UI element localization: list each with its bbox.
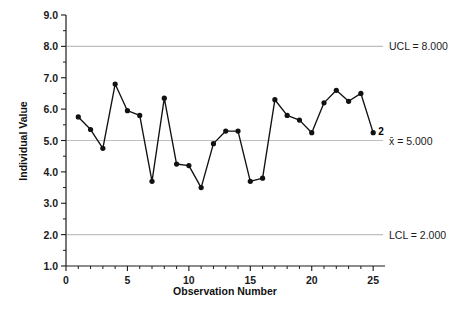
- data-point: [174, 161, 179, 166]
- limit-label-ucl: UCL = 8.000: [389, 40, 448, 52]
- x-tick-label: 20: [306, 274, 318, 286]
- data-point: [334, 88, 339, 93]
- y-tick-label: 7.0: [43, 72, 58, 84]
- y-tick-label: 9.0: [43, 9, 58, 21]
- y-axis-tick-labels: 1.02.03.04.05.06.07.08.09.0: [43, 9, 58, 272]
- x-tick-label: 0: [63, 274, 69, 286]
- y-axis-title: Individual Value: [17, 101, 29, 181]
- data-point: [309, 130, 314, 135]
- data-point: [260, 176, 265, 181]
- y-tick-label: 8.0: [43, 40, 58, 52]
- y-tick-label: 5.0: [43, 135, 58, 147]
- data-point: [285, 113, 290, 118]
- control-chart: 1.02.03.04.05.06.07.08.09.0 0510152025 I…: [0, 0, 471, 318]
- data-point: [272, 97, 277, 102]
- data-point: [113, 81, 118, 86]
- data-point: [162, 96, 167, 101]
- y-tick-label: 1.0: [43, 260, 58, 272]
- limit-label-center: x̄ = 5.000: [389, 135, 433, 147]
- data-point: [76, 114, 81, 119]
- data-point: [235, 128, 240, 133]
- data-point: [149, 179, 154, 184]
- data-point: [125, 108, 130, 113]
- data-point: [321, 100, 326, 105]
- data-point: [199, 185, 204, 190]
- data-point: [297, 118, 302, 123]
- data-point: [358, 91, 363, 96]
- y-tick-label: 6.0: [43, 103, 58, 115]
- data-point: [346, 99, 351, 104]
- x-tick-label: 5: [125, 274, 131, 286]
- data-point: [248, 179, 253, 184]
- limit-label-lcl: LCL = 2.000: [389, 229, 446, 241]
- data-point: [211, 141, 216, 146]
- data-point: [100, 146, 105, 151]
- violation-annotations: 2: [378, 126, 384, 137]
- x-tick-label: 25: [367, 274, 379, 286]
- y-tick-label: 4.0: [43, 166, 58, 178]
- data-point: [137, 113, 142, 118]
- chart-canvas: 1.02.03.04.05.06.07.08.09.0 0510152025 I…: [0, 0, 471, 318]
- data-point: [88, 127, 93, 132]
- y-tick-label: 3.0: [43, 197, 58, 209]
- data-point: [371, 130, 376, 135]
- data-point: [186, 163, 191, 168]
- y-tick-label: 2.0: [43, 229, 58, 241]
- data-point: [223, 128, 228, 133]
- violation-marker-label: 2: [378, 126, 384, 137]
- x-axis-title: Observation Number: [173, 285, 277, 297]
